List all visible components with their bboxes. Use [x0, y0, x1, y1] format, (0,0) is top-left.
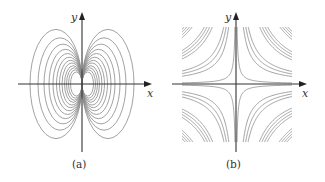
panel-a-caption: (a)	[72, 158, 86, 170]
panel-b-caption: (b)	[226, 158, 241, 170]
panel-b: y x (b)	[172, 11, 309, 170]
hyperbola	[176, 24, 214, 62]
hyperbola	[283, 131, 296, 144]
figure: y x (a) y x (b)	[0, 0, 325, 182]
hyperbola	[176, 107, 214, 145]
hyperbola	[280, 128, 296, 144]
panel-a-y-label: y	[70, 11, 78, 24]
hyperbola	[280, 24, 296, 40]
panel-a-y-arrow-icon	[79, 12, 85, 20]
hyperbola	[237, 85, 296, 144]
hyperbola	[176, 24, 192, 40]
hyperbola	[176, 24, 189, 37]
panel-a-x-label: x	[147, 87, 154, 100]
hyperbola	[176, 85, 235, 144]
hyperbola	[176, 128, 192, 144]
hyperbola	[237, 24, 296, 83]
hyperbola	[283, 24, 296, 37]
panel-b-x-label: x	[302, 87, 309, 100]
hyperbola	[176, 24, 229, 77]
hyperbola	[176, 24, 235, 83]
hyperbola	[243, 91, 296, 144]
hyperbola	[278, 126, 296, 144]
hyperbola	[278, 24, 296, 42]
hyperbola	[176, 91, 229, 144]
hyperbola	[176, 131, 189, 144]
hyperbola	[176, 24, 194, 42]
hyperbola	[176, 126, 194, 144]
panel-b-y-arrow-icon	[233, 12, 239, 20]
panel-a: y x (a)	[18, 11, 154, 170]
hyperbola	[243, 24, 296, 77]
panel-b-y-label: y	[224, 11, 232, 24]
